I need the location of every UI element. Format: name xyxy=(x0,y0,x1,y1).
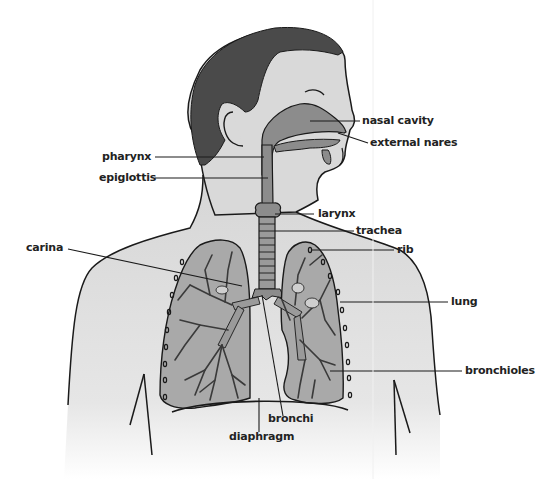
label-diaphragm: diaphragm xyxy=(229,431,294,443)
label-rib: rib xyxy=(397,244,413,256)
label-larynx: larynx xyxy=(318,208,356,220)
label-nasal-cavity: nasal cavity xyxy=(362,115,434,127)
label-external-nares: external nares xyxy=(370,137,457,149)
label-bronchioles: bronchioles xyxy=(465,365,535,377)
respiratory-system-diagram xyxy=(0,0,548,479)
label-lung: lung xyxy=(451,296,478,308)
label-trachea: trachea xyxy=(356,225,402,237)
label-epiglottis: epiglottis xyxy=(99,172,156,184)
label-bronchi: bronchi xyxy=(268,413,313,425)
label-carina: carina xyxy=(26,242,63,254)
label-pharynx: pharynx xyxy=(102,151,151,163)
